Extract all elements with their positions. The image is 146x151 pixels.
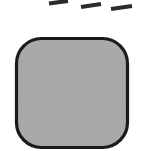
dash-segment-2: [81, 4, 101, 7]
dash-segment-3: [111, 6, 132, 9]
figure-canvas: Rounded square shape with dashed line se…: [0, 0, 146, 151]
dash-segment-1: [49, 1, 68, 4]
rounded-square-group: [17, 39, 128, 148]
rounded-square-fill: [17, 39, 128, 148]
figure-svg: [0, 0, 146, 151]
